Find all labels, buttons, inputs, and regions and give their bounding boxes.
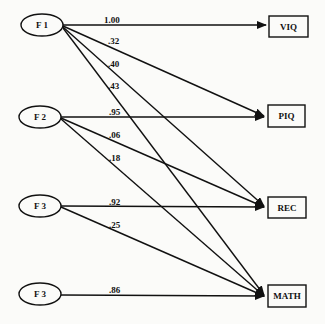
variable-label: MATH [273,291,300,301]
variable-label: PIQ [278,111,294,121]
path-f3a-rec [61,206,264,207]
path-f3b-math [61,295,264,296]
path-diagram: 1.00 .32 .40 .43 .95 .06 .18 .92 .25 .86… [0,0,325,324]
coef-f1-math: .43 [108,81,120,91]
observed-variable-rec: REC [268,197,306,218]
variable-label: VIQ [280,22,297,32]
latent-factor-f2: F 2 [19,106,61,128]
coef-f2-math: .18 [109,153,121,163]
path-f1-piq [63,26,264,116]
coef-f2-rec: .06 [109,130,121,140]
factor-label: F 3 [34,201,46,211]
coef-f1-viq: 1.00 [104,15,120,25]
latent-factor-f1: F 1 [21,14,63,36]
variable-label: REC [277,203,296,213]
coef-f3a-rec: .92 [109,197,121,207]
observed-variable-piq: PIQ [268,105,305,127]
observed-variable-viq: VIQ [269,16,308,37]
factor-label: F 3 [34,289,46,299]
coef-f3a-math: .25 [109,220,121,230]
coef-f2-piq: .95 [109,107,121,117]
factor-label: F 1 [36,20,48,30]
coef-f1-piq: .32 [108,36,120,46]
path-f1-math [63,28,264,295]
path-f3a-math [61,207,264,296]
observed-variable-math: MATH [268,285,306,307]
coef-f3b-math: .86 [109,285,121,295]
latent-factor-f3b: F 3 [19,283,61,305]
latent-factor-f3a: F 3 [19,195,61,217]
factor-label: F 2 [34,112,46,122]
path-f2-rec [61,118,264,207]
coef-f1-rec: .40 [108,59,120,69]
